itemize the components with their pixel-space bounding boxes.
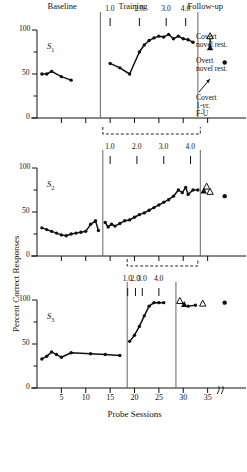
- baseline-point-S2-11: [94, 219, 97, 222]
- training-tick-label-S1-3.0: 3.0: [161, 5, 171, 13]
- baseline-point-S2-3: [55, 231, 58, 234]
- x-tick-label-25: 25: [155, 394, 163, 402]
- baseline-point-S2-0: [40, 226, 43, 229]
- baseline-point-S2-7: [74, 231, 77, 234]
- x-tick-label-15: 15: [106, 394, 114, 402]
- followup-mid-point-S3-1: [194, 304, 197, 307]
- training-point-S2-6: [128, 218, 131, 221]
- baseline-point-S2-10: [89, 223, 92, 226]
- training-point-S3-1: [133, 334, 136, 337]
- x-tick-label-20: 20: [131, 394, 139, 402]
- training-point-S3-4: [147, 304, 150, 307]
- baseline-point-S1-3: [60, 75, 63, 78]
- y-tick-label-S2-50: 50: [22, 207, 30, 215]
- baseline-point-S2-4: [60, 233, 63, 236]
- baseline-point-S1-4: [69, 78, 72, 81]
- training-point-S2-21: [196, 188, 199, 191]
- training-point-S2-7: [133, 216, 136, 219]
- y-tick-label-S3-100: 100: [19, 295, 30, 303]
- training-point-S2-13: [162, 201, 165, 204]
- training-point-S3-2: [138, 325, 141, 328]
- x-tick-label-10: 10: [82, 394, 90, 402]
- covert-1yr-marker-S2: [222, 194, 226, 198]
- baseline-point-S3-3: [55, 353, 58, 356]
- training-point-S2-18: [184, 186, 187, 189]
- y-tick-label-S2-100: 100: [19, 163, 30, 171]
- training-point-S1-4: [143, 43, 146, 46]
- covert-novel-marker-S3: [177, 297, 183, 303]
- phase-header-baseline: Baseline: [48, 2, 77, 11]
- training-tick-label-S1-2.0: 2.0: [134, 5, 144, 13]
- x-axis-label: Probe Sessions: [108, 410, 162, 419]
- training-point-S1-12: [182, 37, 185, 40]
- x-tick-label-35: 35: [204, 394, 212, 402]
- baseline-point-S2-5: [65, 234, 68, 237]
- training-point-S2-4: [118, 222, 121, 225]
- training-point-S1-5: [147, 39, 150, 42]
- training-tick-label-S1-1.0: 1.0: [105, 5, 115, 13]
- baseline-point-S3-7: [104, 353, 107, 356]
- training-point-S2-5: [123, 219, 126, 222]
- training-point-S3-7: [162, 301, 165, 304]
- x-tick-label-5: 5: [59, 394, 63, 402]
- baseline-point-S2-6: [69, 232, 72, 235]
- y-tick-label-S1-100: 100: [19, 25, 30, 33]
- training-point-S1-10: [172, 37, 175, 40]
- training-point-S1-8: [162, 35, 165, 38]
- y-tick-label-S1-50: 50: [22, 69, 30, 77]
- x-tick-label-30: 30: [179, 394, 187, 402]
- training-point-S1-3: [138, 50, 141, 53]
- training-point-S1-13: [186, 38, 189, 41]
- covert-1yr-marker-S3: [222, 300, 226, 304]
- baseline-point-S1-1: [45, 72, 48, 75]
- training-point-S1-1: [118, 66, 121, 69]
- training-point-S1-9: [167, 33, 170, 36]
- y-axis-label: Percent Correct Responses: [12, 236, 21, 332]
- baseline-point-S2-2: [50, 230, 53, 233]
- training-tick-label-S3-4.0: 4.0: [154, 275, 164, 283]
- training-point-S3-0: [128, 340, 131, 343]
- training-point-S2-16: [177, 188, 180, 191]
- y-tick-label-S2-0: 0: [26, 251, 30, 259]
- training-point-S1-6: [152, 36, 155, 39]
- training-point-S2-1: [106, 225, 109, 228]
- training-tick-label-S2-2.0: 2.0: [132, 143, 142, 151]
- baseline-line-S3: [42, 352, 120, 359]
- training-tick-label-S2-3.0: 3.0: [159, 143, 169, 151]
- baseline-point-S3-1: [45, 355, 48, 358]
- training-line-S1: [110, 34, 193, 74]
- baseline-point-S1-2: [50, 70, 53, 73]
- training-point-S3-6: [157, 301, 160, 304]
- open-triangle-marker-S3: [200, 300, 206, 306]
- baseline-point-S3-8: [118, 354, 121, 357]
- training-point-S2-20: [191, 188, 194, 191]
- training-point-S3-3: [143, 314, 146, 317]
- training-tick-label-S1-4.0: 4.0: [181, 5, 191, 13]
- subject-label-S1: S1: [47, 42, 54, 53]
- legend-overt-novel-label: Overtnovel rest.: [196, 57, 228, 73]
- training-point-S1-7: [157, 34, 160, 37]
- legend-covert-novel-label: Covertnovel rest.: [196, 33, 228, 49]
- training-point-S2-14: [167, 198, 170, 201]
- training-bracket-S2: [103, 127, 201, 134]
- training-bracket-S3: [127, 259, 198, 266]
- training-point-S2-19: [186, 193, 189, 196]
- training-point-S3-5: [152, 301, 155, 304]
- baseline-point-S2-8: [79, 231, 82, 234]
- training-point-S2-2: [110, 223, 113, 226]
- training-tick-label-S2-4.0: 4.0: [186, 143, 196, 151]
- training-point-S2-8: [138, 213, 141, 216]
- baseline-point-S2-1: [45, 228, 48, 231]
- training-point-S2-10: [147, 209, 150, 212]
- baseline-point-S3-5: [69, 351, 72, 354]
- y-tick-label-S3-50: 50: [22, 339, 30, 347]
- training-point-S2-12: [157, 203, 160, 206]
- training-point-S2-0: [104, 221, 107, 224]
- y-tick-label-S3-0: 0: [26, 383, 30, 391]
- training-point-S2-3: [113, 224, 116, 227]
- training-point-S2-11: [152, 206, 155, 209]
- training-point-S2-15: [172, 194, 175, 197]
- phase-header-follow-up: Follow-up: [188, 2, 223, 11]
- training-point-S2-9: [143, 211, 146, 214]
- baseline-point-S3-0: [40, 357, 43, 360]
